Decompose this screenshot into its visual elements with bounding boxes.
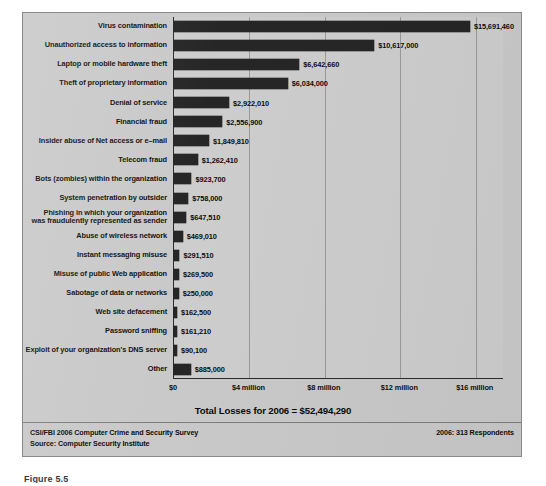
category-label: Laptop or mobile hardware theft bbox=[57, 60, 171, 68]
category-label: Bots (zombies) within the organization bbox=[35, 175, 171, 183]
bar bbox=[174, 59, 299, 70]
bar-value-label: $885,000 bbox=[195, 365, 225, 374]
x-tick-label: $12 million bbox=[381, 383, 418, 392]
bar bbox=[174, 78, 288, 89]
total-losses-text: Total Losses for 2006 = $52,494,290 bbox=[23, 405, 523, 416]
category-label: Instant messaging misuse bbox=[77, 251, 171, 259]
category-label: Virus contamination bbox=[98, 22, 171, 30]
x-tick-label: $0 bbox=[169, 383, 177, 392]
bar-value-label: $162,500 bbox=[181, 308, 211, 317]
bar-value-label: $469,010 bbox=[187, 232, 217, 241]
x-tick-label: $8 million bbox=[307, 383, 340, 392]
figure-footer: CSI/FBI 2006 Computer Crime and Security… bbox=[23, 422, 521, 456]
bar-value-label: $2,556,900 bbox=[226, 118, 262, 127]
category-label: Insider abuse of Net access or e–mail bbox=[39, 137, 171, 145]
bar bbox=[174, 135, 209, 146]
chart-row: Instant messaging misuse bbox=[23, 246, 171, 265]
category-label: Sabotage of data or networks bbox=[66, 289, 171, 297]
category-label: Exploit of your organization's DNS serve… bbox=[26, 346, 171, 354]
gridline bbox=[325, 17, 326, 378]
category-label: Financial fraud bbox=[116, 118, 171, 126]
figure-caption: Figure 5.5 bbox=[24, 474, 69, 483]
bar bbox=[174, 212, 186, 223]
bar-value-label: $1,262,410 bbox=[202, 156, 238, 165]
chart-row: Password sniffing bbox=[23, 322, 171, 341]
bar bbox=[174, 40, 374, 51]
category-label: Password sniffing bbox=[105, 327, 171, 335]
chart-row: Abuse of wireless network bbox=[23, 227, 171, 246]
chart-row: Virus contamination bbox=[23, 17, 171, 36]
bar bbox=[174, 21, 470, 32]
chart-row: Financial fraud bbox=[23, 112, 171, 131]
chart-row: Other bbox=[23, 360, 171, 379]
chart-row: Unauthorized access to information bbox=[23, 36, 171, 55]
chart-row: Telecom fraud bbox=[23, 150, 171, 169]
bar bbox=[174, 173, 191, 184]
bar-value-label: $647,510 bbox=[190, 213, 220, 222]
bar bbox=[174, 193, 188, 204]
bar bbox=[174, 97, 229, 108]
category-label: Unauthorized access to information bbox=[45, 41, 171, 49]
chart-row: Bots (zombies) within the organization bbox=[23, 169, 171, 188]
gridline bbox=[476, 17, 477, 378]
category-label: Theft of proprietary information bbox=[59, 79, 171, 87]
chart-row: Laptop or mobile hardware theft bbox=[23, 55, 171, 74]
chart-row: Insider abuse of Net access or e–mail bbox=[23, 131, 171, 150]
bar-value-label: $15,691,460 bbox=[474, 22, 514, 31]
category-label: Phishing in which your organization was … bbox=[32, 209, 171, 226]
chart-figure: Virus contaminationUnauthorized access t… bbox=[22, 12, 522, 457]
chart-row: Exploit of your organization's DNS serve… bbox=[23, 341, 171, 360]
footer-respondents: 2006: 313 Respondents bbox=[436, 428, 514, 437]
chart-row: Phishing in which your organization was … bbox=[23, 208, 171, 227]
category-label: Other bbox=[148, 365, 171, 373]
bar bbox=[174, 288, 179, 299]
bar-value-label: $10,617,000 bbox=[378, 41, 418, 50]
category-label: Abuse of wireless network bbox=[76, 232, 171, 240]
x-tick-label: $4 million bbox=[232, 383, 265, 392]
category-label: Denial of service bbox=[110, 99, 171, 107]
chart-row: Theft of proprietary information bbox=[23, 74, 171, 93]
bar-value-label: $1,849,810 bbox=[213, 137, 249, 146]
chart-row: Sabotage of data or networks bbox=[23, 284, 171, 303]
bar bbox=[174, 116, 222, 127]
footer-survey-line: CSI/FBI 2006 Computer Crime and Security… bbox=[30, 428, 198, 439]
chart-plot-region: Virus contaminationUnauthorized access t… bbox=[23, 13, 523, 391]
footer-source-line: Source: Computer Security Institute bbox=[30, 439, 198, 450]
bar-value-label: $923,700 bbox=[195, 175, 225, 184]
bar bbox=[174, 364, 191, 375]
bar bbox=[174, 269, 179, 280]
category-label: Misuse of public Web application bbox=[54, 270, 171, 278]
bar bbox=[174, 345, 177, 356]
gridline bbox=[400, 17, 401, 378]
bar bbox=[174, 326, 177, 337]
chart-row: Web site defacement bbox=[23, 303, 171, 322]
x-axis-tick-labels: $0$4 million$8 million$12 million$16 mil… bbox=[173, 383, 503, 395]
gridline bbox=[249, 17, 250, 378]
bar-value-label: $250,000 bbox=[183, 289, 213, 298]
plot-area: $15,691,460$10,617,000$6,642,660$6,034,0… bbox=[173, 17, 503, 379]
category-label-column: Virus contaminationUnauthorized access t… bbox=[23, 17, 171, 379]
chart-row: Denial of service bbox=[23, 93, 171, 112]
category-label: System penetration by outsider bbox=[60, 194, 171, 202]
bar-value-label: $2,922,010 bbox=[233, 99, 269, 108]
category-label: Web site defacement bbox=[96, 308, 171, 316]
x-tick-label: $16 million bbox=[456, 383, 493, 392]
category-label: Telecom fraud bbox=[118, 156, 171, 164]
bar-value-label: $6,642,660 bbox=[303, 60, 339, 69]
bar bbox=[174, 231, 183, 242]
footer-source: CSI/FBI 2006 Computer Crime and Security… bbox=[30, 428, 198, 449]
chart-row: System penetration by outsider bbox=[23, 188, 171, 207]
bar bbox=[174, 154, 198, 165]
bar-value-label: $758,000 bbox=[192, 194, 222, 203]
bar-value-label: $90,100 bbox=[181, 346, 207, 355]
chart-row: Misuse of public Web application bbox=[23, 265, 171, 284]
bar bbox=[174, 307, 177, 318]
bar-value-label: $6,034,000 bbox=[292, 79, 328, 88]
bar bbox=[174, 250, 179, 261]
bar-value-label: $161,210 bbox=[181, 327, 211, 336]
bar-value-label: $269,500 bbox=[183, 270, 213, 279]
bar-value-label: $291,510 bbox=[183, 251, 213, 260]
